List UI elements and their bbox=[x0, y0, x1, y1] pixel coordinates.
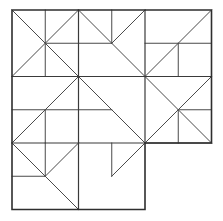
geometric-line-figure bbox=[0, 0, 223, 221]
